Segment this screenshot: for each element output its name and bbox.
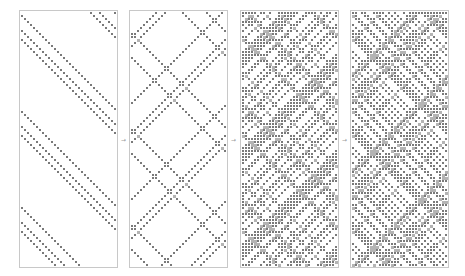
- separator-arrow-1: →: [121, 137, 124, 143]
- ca-panel-2: [129, 10, 228, 268]
- ca-canvas-1: [21, 12, 118, 268]
- ca-panel-4: [350, 10, 449, 268]
- ca-panel-3: [240, 10, 339, 268]
- ca-canvas-3: [242, 12, 339, 268]
- separator-arrow-3: →: [342, 137, 345, 143]
- ca-canvas-4: [352, 12, 449, 268]
- ca-panel-1: [19, 10, 118, 268]
- separator-arrow-2: →: [231, 137, 234, 143]
- ca-canvas-2: [131, 12, 228, 268]
